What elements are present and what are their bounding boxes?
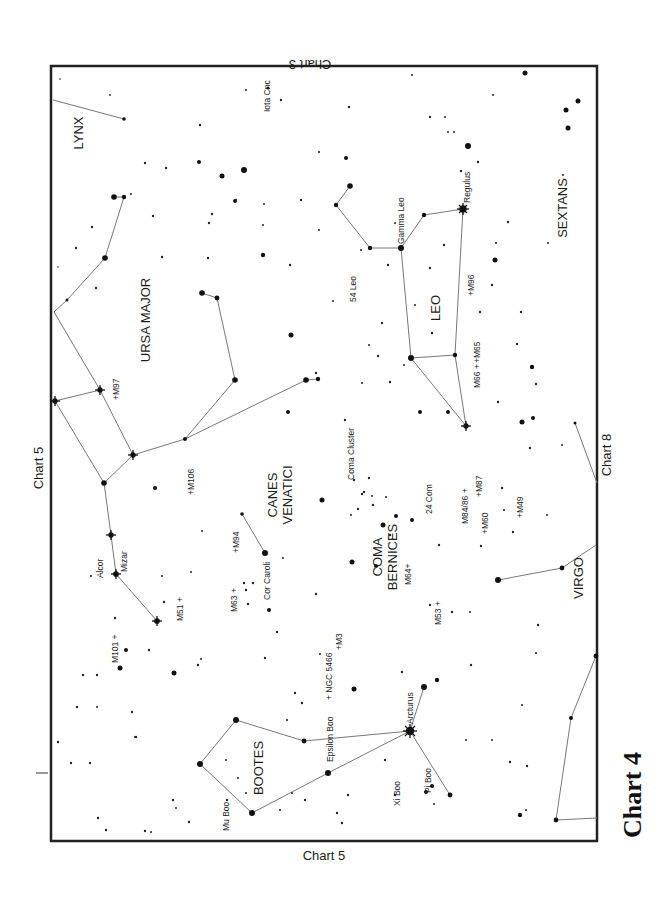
constellation-bootes: BOOTES	[251, 741, 266, 796]
label-m66: M66 +	[472, 364, 482, 388]
constellation-lines	[53, 100, 597, 820]
chart-title: Chart 4	[618, 752, 647, 838]
arcturus-star-icon	[403, 724, 417, 738]
constellation-ursa-major: URSA MAJOR	[138, 278, 153, 363]
constellation-lynx: LYNX	[71, 116, 86, 149]
label-regulus: Regulus	[462, 172, 472, 203]
denebola-star-icon	[461, 421, 471, 431]
label-m101: M101 +	[110, 634, 120, 663]
label-m65: +M65	[472, 341, 482, 363]
label-m3: +M3	[334, 633, 344, 650]
label-m63: M63 +	[229, 588, 239, 612]
label-pi-boo: Pi Boo	[423, 768, 433, 793]
constellation-bernices: BERNICES	[385, 523, 400, 590]
label-m106: +M106	[186, 469, 196, 495]
label-m97: +M97	[111, 378, 121, 400]
star-icon	[106, 530, 116, 540]
star-chart: Chart 5 Chart 5 Chart 8 Chart 3 Chart 4	[0, 0, 657, 901]
label-m94: +M94	[231, 531, 241, 553]
constellation-sextans: SEXTANS	[555, 178, 570, 238]
chart-ref-bottom[interactable]: Chart 5	[303, 848, 346, 863]
label-mizar: Mizar	[119, 551, 129, 572]
label-m87: +M87	[474, 475, 484, 497]
stars	[66, 71, 599, 823]
label-24-com: 24 Com	[424, 484, 434, 514]
label-m53: M53 +	[433, 601, 443, 625]
label-gamma-leo: Gamma Leo	[396, 197, 406, 244]
label-m96: +M96	[466, 274, 476, 296]
deep-sky-labels: +M97 +M106 +M94 M63 + M51 + M101 + + NGC…	[110, 274, 525, 700]
label-arcturus: Arcturus	[405, 692, 415, 724]
label-ngc-5466: + NGC 5466	[324, 652, 334, 700]
constellation-venatici: VENATICI	[280, 466, 295, 525]
label-m84-86: M84/86 +	[460, 488, 470, 524]
label-m51: M51 +	[175, 597, 185, 621]
chart-ref-left[interactable]: Chart 5	[31, 447, 46, 490]
constellation-virgo: VIRGO	[571, 557, 586, 599]
label-xi-boo: Xi Boo	[392, 781, 402, 806]
label-m64: M64+	[403, 563, 413, 585]
constellation-leo: LEO	[428, 295, 443, 321]
label-m60: +M60	[480, 512, 490, 534]
constellation-coma: COMA	[370, 537, 385, 576]
chart-ref-top[interactable]: Chart 3	[289, 57, 332, 72]
label-cor-caroli: Cor Caroli	[262, 562, 272, 600]
label-alcor: Alcor	[95, 558, 105, 578]
star-labels: Iota Cnc Regulus Gamma Leo 54 Leo Alcor …	[95, 80, 472, 831]
label-epsilon-boo: Epsilon Boo	[325, 716, 335, 762]
label-54-leo: 54 Leo	[348, 276, 358, 302]
chart-ref-right[interactable]: Chart 8	[599, 434, 614, 477]
label-m49: +M49	[515, 496, 525, 518]
constellation-canes: CANES	[265, 472, 280, 517]
label-mu-boo: Mu Boo	[221, 801, 231, 831]
star-icon	[95, 385, 105, 395]
label-coma-cluster: Coma Cluster	[346, 428, 356, 480]
regulus-star-icon	[457, 203, 469, 215]
label-iota-cnc: Iota Cnc	[262, 80, 272, 112]
